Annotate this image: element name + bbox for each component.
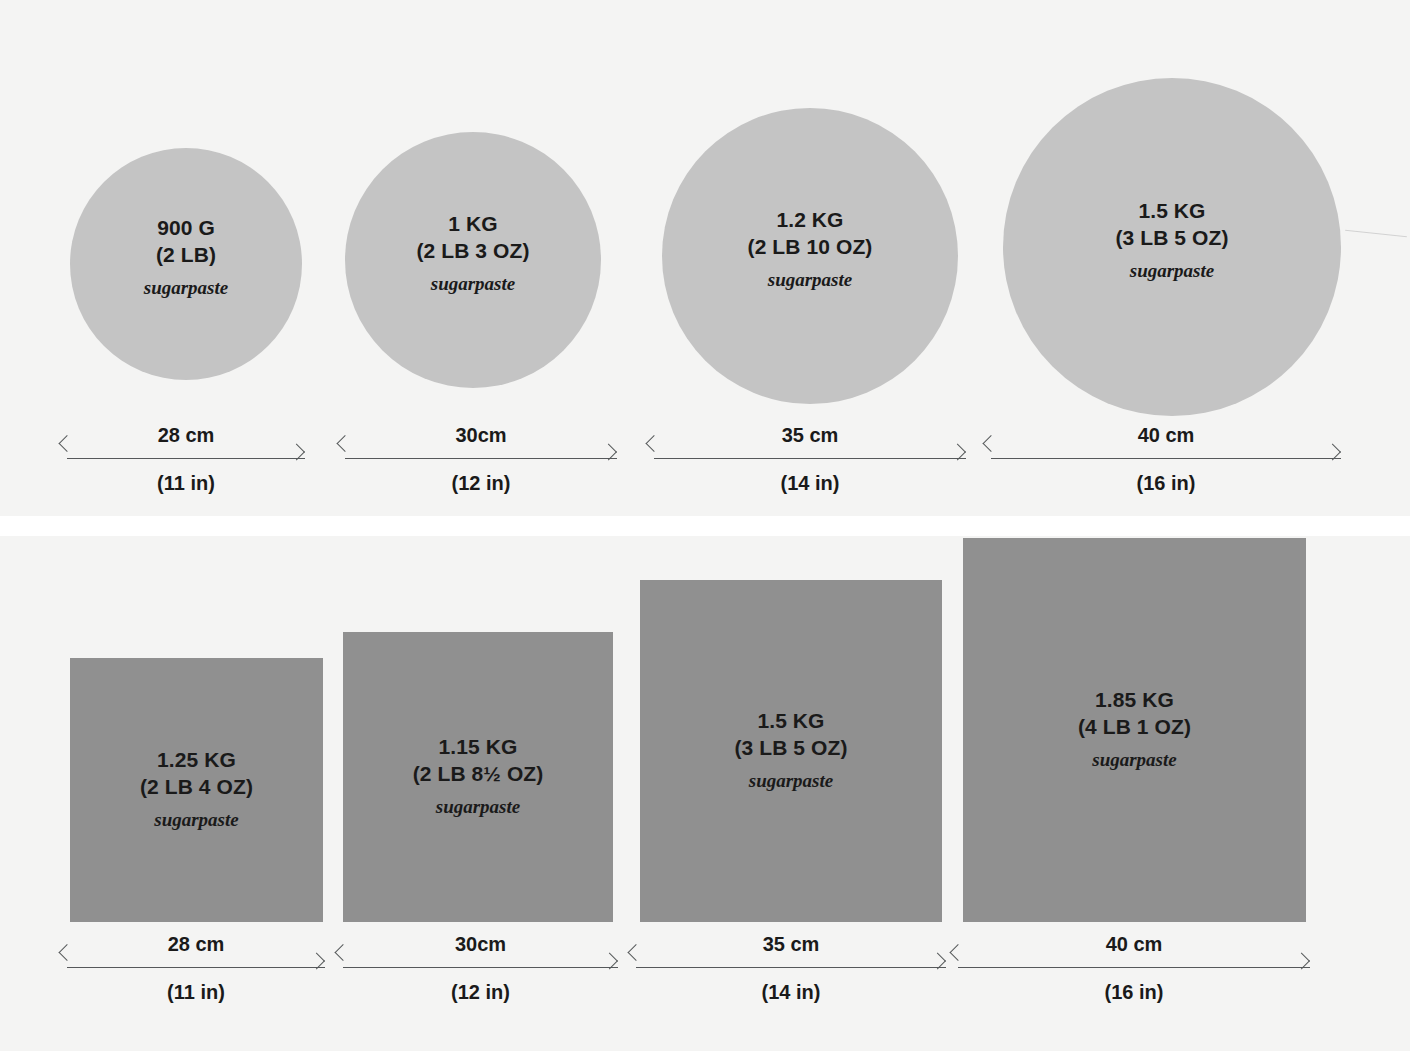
dimension-rule: 30cm (12 in)	[343, 934, 618, 1002]
dimension-imperial: (16 in)	[991, 473, 1341, 493]
dimension-imperial: (11 in)	[67, 982, 325, 1002]
dimension-rule: 40 cm (16 in)	[991, 425, 1341, 493]
double-arrow-icon	[67, 961, 325, 974]
square-cake-item: 1.25 KG (2 LB 4 OZ) sugarpaste 28 cm (11…	[70, 536, 323, 1051]
round-cake-item: 1.5 KG (3 LB 5 OZ) sugarpaste 40 cm (16 …	[1003, 0, 1341, 516]
dimension-rule: 35 cm (14 in)	[636, 934, 946, 1002]
dimension-metric: 35 cm	[636, 934, 946, 954]
dimension-metric: 30cm	[343, 934, 618, 954]
dimension-metric: 35 cm	[654, 425, 966, 445]
imperial-weight: (3 LB 5 OZ)	[1115, 225, 1228, 252]
dimension-imperial: (11 in)	[67, 473, 305, 493]
round-cakes-panel: 900 G (2 LB) sugarpaste 28 cm (11 in)	[0, 0, 1410, 516]
dimension-metric: 28 cm	[67, 425, 305, 445]
square-cakes-panel-inner: 1.25 KG (2 LB 4 OZ) sugarpaste 28 cm (11…	[0, 536, 1410, 1051]
material-name: sugarpaste	[734, 769, 847, 793]
dimension-metric: 40 cm	[991, 425, 1341, 445]
double-arrow-icon	[636, 961, 946, 974]
imperial-weight: (3 LB 5 OZ)	[734, 735, 847, 762]
metric-weight: 1.5 KG	[1115, 198, 1228, 225]
round-cake-label: 1 KG (2 LB 3 OZ) sugarpaste	[410, 211, 535, 296]
double-arrow-icon	[654, 452, 966, 465]
material-name: sugarpaste	[140, 808, 253, 832]
double-arrow-icon	[991, 452, 1341, 465]
sugarpaste-size-guide: 900 G (2 LB) sugarpaste 28 cm (11 in)	[0, 0, 1410, 1051]
dimension-imperial: (16 in)	[958, 982, 1310, 1002]
double-arrow-icon	[345, 452, 617, 465]
material-name: sugarpaste	[144, 276, 228, 300]
square-cake-label: 1.15 KG (2 LB 8½ OZ) sugarpaste	[407, 734, 550, 819]
hairline-artifact	[1345, 230, 1407, 237]
dimension-imperial: (12 in)	[345, 473, 617, 493]
metric-weight: 1 KG	[416, 211, 529, 238]
square-cake-shape: 1.5 KG (3 LB 5 OZ) sugarpaste	[640, 580, 942, 922]
round-cake-label: 1.5 KG (3 LB 5 OZ) sugarpaste	[1109, 198, 1234, 283]
metric-weight: 1.15 KG	[413, 734, 544, 761]
dimension-metric: 28 cm	[67, 934, 325, 954]
metric-weight: 1.2 KG	[748, 207, 873, 234]
dimension-rule: 30cm (12 in)	[345, 425, 617, 493]
square-cake-item: 1.5 KG (3 LB 5 OZ) sugarpaste 35 cm (14 …	[640, 536, 942, 1051]
dimension-imperial: (14 in)	[654, 473, 966, 493]
round-cake-item: 1 KG (2 LB 3 OZ) sugarpaste 30cm (12 in)	[345, 0, 601, 516]
material-name: sugarpaste	[413, 795, 544, 819]
round-cake-shape: 1 KG (2 LB 3 OZ) sugarpaste	[345, 132, 601, 388]
metric-weight: 900 G	[144, 215, 228, 242]
round-cake-shape: 900 G (2 LB) sugarpaste	[70, 148, 302, 380]
square-cake-label: 1.5 KG (3 LB 5 OZ) sugarpaste	[728, 708, 853, 793]
dimension-imperial: (12 in)	[343, 982, 618, 1002]
dimension-metric: 30cm	[345, 425, 617, 445]
square-cake-item: 1.85 KG (4 LB 1 OZ) sugarpaste 40 cm (16…	[963, 536, 1306, 1051]
square-cake-shape: 1.25 KG (2 LB 4 OZ) sugarpaste	[70, 658, 323, 922]
dimension-rule: 40 cm (16 in)	[958, 934, 1310, 1002]
round-cake-label: 1.2 KG (2 LB 10 OZ) sugarpaste	[742, 207, 879, 292]
imperial-weight: (4 LB 1 OZ)	[1078, 714, 1191, 741]
material-name: sugarpaste	[1078, 748, 1191, 772]
round-cake-item: 1.2 KG (2 LB 10 OZ) sugarpaste 35 cm (14…	[662, 0, 958, 516]
imperial-weight: (2 LB 4 OZ)	[140, 774, 253, 801]
material-name: sugarpaste	[416, 272, 529, 296]
dimension-metric: 40 cm	[958, 934, 1310, 954]
square-cake-item: 1.15 KG (2 LB 8½ OZ) sugarpaste 30cm (12…	[343, 536, 613, 1051]
material-name: sugarpaste	[748, 268, 873, 292]
metric-weight: 1.5 KG	[734, 708, 847, 735]
material-name: sugarpaste	[1115, 259, 1228, 283]
imperial-weight: (2 LB 10 OZ)	[748, 234, 873, 261]
double-arrow-icon	[343, 961, 618, 974]
imperial-weight: (2 LB 3 OZ)	[416, 238, 529, 265]
imperial-weight: (2 LB)	[144, 242, 228, 269]
imperial-weight: (2 LB 8½ OZ)	[413, 761, 544, 788]
round-cake-shape: 1.5 KG (3 LB 5 OZ) sugarpaste	[1003, 78, 1341, 416]
square-cake-shape: 1.85 KG (4 LB 1 OZ) sugarpaste	[963, 538, 1306, 922]
round-cake-label: 900 G (2 LB) sugarpaste	[138, 215, 234, 300]
double-arrow-icon	[958, 961, 1310, 974]
dimension-rule: 35 cm (14 in)	[654, 425, 966, 493]
square-cakes-panel: 1.25 KG (2 LB 4 OZ) sugarpaste 28 cm (11…	[0, 536, 1410, 1051]
dimension-rule: 28 cm (11 in)	[67, 934, 325, 1002]
dimension-imperial: (14 in)	[636, 982, 946, 1002]
metric-weight: 1.25 KG	[140, 747, 253, 774]
square-cake-label: 1.85 KG (4 LB 1 OZ) sugarpaste	[1072, 687, 1197, 772]
round-cake-item: 900 G (2 LB) sugarpaste 28 cm (11 in)	[70, 0, 302, 516]
square-cake-shape: 1.15 KG (2 LB 8½ OZ) sugarpaste	[343, 632, 613, 922]
square-cake-label: 1.25 KG (2 LB 4 OZ) sugarpaste	[134, 747, 259, 832]
dimension-rule: 28 cm (11 in)	[67, 425, 305, 493]
round-cakes-panel-inner: 900 G (2 LB) sugarpaste 28 cm (11 in)	[0, 0, 1410, 516]
metric-weight: 1.85 KG	[1078, 687, 1191, 714]
round-cake-shape: 1.2 KG (2 LB 10 OZ) sugarpaste	[662, 108, 958, 404]
double-arrow-icon	[67, 452, 305, 465]
